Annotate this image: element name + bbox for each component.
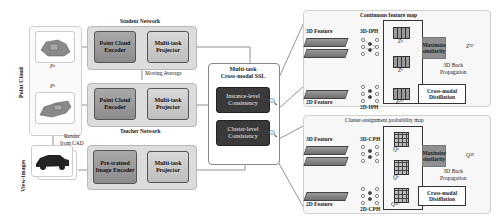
point-cloud-b-symbol: Pᵇ <box>50 83 55 89</box>
q-b-prob-map <box>394 160 409 175</box>
cluster-magnify-icon: 🔍 <box>269 130 278 138</box>
ssl-title-line1: Multi-task <box>230 66 257 72</box>
z-2d-label: Z²ᴰ <box>396 98 403 104</box>
continuous-3d-feature-a <box>303 38 348 47</box>
cluster-3d-feature-b <box>303 157 348 166</box>
point-cloud-a-symbol: Pᵃ <box>50 63 56 69</box>
cluster-level-consistency: Cluster-level Consistency <box>216 120 270 146</box>
z-b-label: Zᵇ <box>398 67 403 73</box>
moving-average-label: Moving Average <box>145 70 182 76</box>
q-a-label: Qᵃ <box>393 146 399 152</box>
continuous-2d-feature <box>303 90 348 99</box>
continuous-2d-head-icon <box>360 83 380 105</box>
instance-magnify-icon: 🔍 <box>269 98 278 106</box>
point-cloud-label: Point Cloud <box>18 67 24 98</box>
continuous-maximize-similarity: Maximize similarity <box>422 37 446 59</box>
ssl-title: Multi-task Cross-modal SSL <box>210 66 276 80</box>
continuous-backprop-label: 3D Back Propagation <box>440 62 467 75</box>
cluster-cross-modal-distillation: Cross-modal Distillation <box>418 186 466 206</box>
point-cloud-a-thumbnail <box>35 31 75 63</box>
student-network-title: Student Network <box>120 18 160 24</box>
ssl-title-line2: Cross-modal SSL <box>221 73 266 79</box>
continuous-3d-feature-label: 3D Feature <box>306 28 332 34</box>
pretrained-image-encoder: Pre-trained Image Encoder <box>93 150 137 184</box>
q-b-label: Qᵇ <box>393 174 398 180</box>
view-images-label: View-images <box>20 160 26 192</box>
cluster-2d-head-label: 2D-CPH <box>360 206 380 212</box>
cluster-maximize-similarity: Maximize similarity <box>422 145 446 167</box>
continuous-title: Continuous feature map <box>360 12 417 18</box>
teacher-multi-task-projector: Multi-task Projector <box>147 88 189 120</box>
continuous-3d-head-icon <box>360 36 380 58</box>
continuous-backprop-line1: 3D Back <box>444 62 463 68</box>
cluster-backprop-line2: Propagation <box>440 175 467 181</box>
point-cloud-b-thumbnail <box>35 92 75 124</box>
continuous-2d-feature-label: 2D Feature <box>306 99 332 105</box>
cluster-backprop-line1: 3D Back <box>444 168 463 174</box>
continuous-2d-head-label: 2D-IPH <box>360 104 378 110</box>
cluster-2d-head-icon <box>360 185 380 207</box>
cluster-backprop-label: 3D Back Propagation <box>440 168 467 181</box>
q-a-prob-map <box>394 132 409 147</box>
q-3d-label: Q³ᴰ <box>466 152 474 158</box>
continuous-3d-head-label: 3D-IPH <box>360 28 378 34</box>
z-3d-label: Z³ᴰ <box>466 43 473 49</box>
student-multi-task-projector: Multi-task Projector <box>147 31 189 63</box>
view-image-front <box>31 145 73 177</box>
teacher-point-cloud-encoder: Point Cloud Encoder <box>94 88 136 120</box>
z-a-label: Zᵃ <box>398 38 403 44</box>
continuous-3d-feature-b <box>303 49 348 58</box>
cluster-2d-feature-label: 2D Feature <box>306 201 332 207</box>
student-point-cloud-encoder: Point Cloud Encoder <box>94 31 136 63</box>
instance-level-consistency: Instance-level Consistency <box>216 87 270 113</box>
continuous-cross-modal-distillation: Cross-modal Distillation <box>418 84 466 104</box>
cluster-3d-feature-a <box>303 146 348 155</box>
q-2d-label: Q²ᴰ <box>391 201 399 207</box>
continuous-backprop-line2: Propagation <box>440 69 467 75</box>
image-multi-task-projector: Multi-task Projector <box>147 151 189 183</box>
teacher-network-title: Teacher Network <box>120 128 160 134</box>
cluster-3d-feature-label: 3D Feature <box>306 136 332 142</box>
cluster-2d-feature <box>303 192 348 201</box>
cluster-3d-head-label: 3D-CPH <box>360 136 380 142</box>
cluster-3d-head-icon <box>360 143 380 165</box>
render-label-line1: Render <box>64 133 80 139</box>
cluster-map-title: Cluster-assignment probability map <box>345 117 424 123</box>
